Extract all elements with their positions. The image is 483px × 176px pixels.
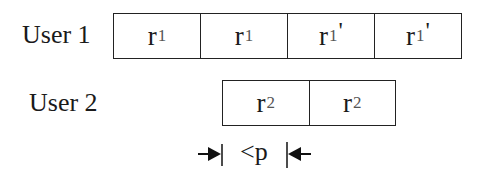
user2-slot-1: r2 <box>223 81 310 125</box>
slot-subscript: 1 <box>158 26 167 46</box>
slot-prime: ' <box>426 17 430 44</box>
user1-slot-1: r1 <box>114 14 201 58</box>
user2-slot-row: r2 r2 <box>222 80 396 126</box>
slot-subscript: 2 <box>267 93 276 113</box>
slot-subscript: 1 <box>329 26 338 46</box>
user1-label: User 1 <box>22 22 91 48</box>
left-arrow-icon <box>287 142 311 168</box>
user1-slot-row: r1 r1 r1' r1' <box>113 13 462 59</box>
user2-label: User 2 <box>29 90 98 116</box>
right-arrow-icon <box>198 144 222 166</box>
slot-subscript: 2 <box>353 93 362 113</box>
slot-prime: ' <box>339 17 343 44</box>
user2-slot-2: r2 <box>310 81 396 125</box>
slot-symbol: r <box>257 88 266 119</box>
user1-slot-2: r1 <box>201 14 288 58</box>
offset-label: <p <box>240 139 268 165</box>
slot-symbol: r <box>235 21 244 52</box>
slot-symbol: r <box>319 21 328 52</box>
slot-symbol: r <box>343 88 352 119</box>
slot-symbol: r <box>148 21 157 52</box>
slot-symbol: r <box>406 21 415 52</box>
user1-slot-3: r1' <box>288 14 375 58</box>
slot-subscript: 1 <box>416 26 425 46</box>
slot-subscript: 1 <box>245 26 254 46</box>
user1-slot-4: r1' <box>375 14 461 58</box>
